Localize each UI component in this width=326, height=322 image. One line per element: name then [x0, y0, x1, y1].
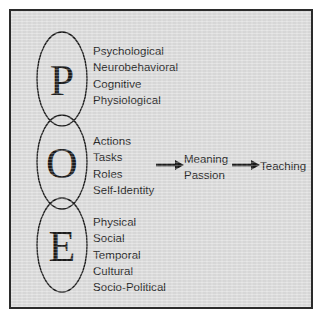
- group-list-person: Psychological Neurobehavioral Cognitive …: [93, 43, 178, 108]
- diagram-frame: P O E Psychological Neurobehavioral Cogn…: [9, 9, 313, 309]
- outcome-meaning-passion: Meaning Passion: [184, 152, 228, 183]
- venn-letter-environment: E: [49, 222, 76, 271]
- result-teaching: Teaching: [260, 159, 306, 175]
- venn-letter-person: P: [50, 56, 74, 105]
- diagram-figure: P O E Psychological Neurobehavioral Cogn…: [0, 0, 326, 322]
- arrow-right-icon-1: [156, 158, 184, 172]
- poe-venn-diagram: P O E: [22, 17, 102, 307]
- group-list-environment: Physical Social Temporal Cultural Socio-…: [93, 214, 166, 295]
- arrow-right-icon-2: [232, 158, 260, 172]
- venn-letter-occupation: O: [46, 139, 78, 188]
- group-list-occupation: Actions Tasks Roles Self-Identity: [93, 133, 154, 198]
